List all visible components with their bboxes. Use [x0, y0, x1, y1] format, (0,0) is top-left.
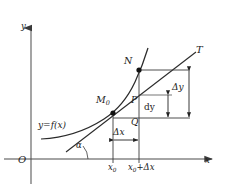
x-tick-label-x0: x0 [108, 163, 116, 173]
figure-background [0, 0, 230, 184]
point-n [136, 67, 141, 72]
point-label-q: Q [131, 118, 138, 127]
differential-diagram [0, 0, 230, 184]
point-m0 [110, 110, 115, 115]
tangent-label: T [196, 45, 203, 55]
curve-equation-label: y=f(x) [38, 121, 66, 130]
x-tick-label-x0-plus-dx: x0+Δx [128, 163, 155, 173]
y-axis-label: y [21, 22, 26, 31]
point-label-n: N [124, 56, 132, 66]
angle-alpha-label: α [76, 141, 82, 150]
point-label-m0: M0 [96, 95, 110, 106]
delta-y-label: Δy [172, 83, 184, 92]
point-label-p: P [131, 96, 137, 105]
dy-label: dy [144, 103, 155, 112]
origin-label: O [18, 155, 26, 165]
x-axis-label: x [205, 156, 210, 165]
delta-x-label: Δx [113, 128, 125, 137]
